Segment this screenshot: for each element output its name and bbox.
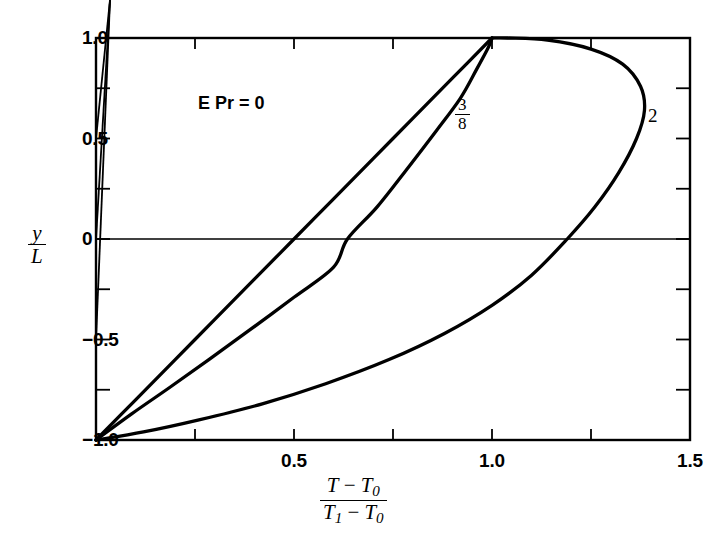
annotation-e-pr-zero: E Pr = 0 — [198, 93, 265, 114]
x-tick-label: 1.5 — [677, 450, 703, 472]
curve-label-three-eighths: 3 8 — [455, 96, 470, 133]
x-tick-label: 1.0 — [479, 450, 505, 472]
chart-canvas — [0, 0, 727, 534]
x-label-den-t0: T — [364, 500, 376, 524]
curve-label-38-numerator: 3 — [455, 96, 470, 114]
x-label-num-t0-sub: 0 — [372, 483, 380, 499]
y-axis-label-numerator: y — [28, 222, 46, 244]
x-label-num-t0: T — [361, 473, 373, 497]
y-axis-label-denominator: L — [28, 244, 46, 267]
x-label-num-t: T — [327, 473, 339, 497]
x-axis-label: T−T0 T1−T0 — [320, 474, 387, 526]
x-label-den-t0-sub: 0 — [376, 509, 384, 525]
x-axis-label-denominator: T1−T0 — [320, 500, 387, 527]
x-label-num-minus: − — [338, 473, 360, 497]
y-axis-ticks — [96, 0, 690, 390]
y-axis-label: y L — [28, 222, 46, 267]
x-tick-label: 0.5 — [281, 450, 307, 472]
figure-container: 0.51.01.5 1.00.50−0.5−1.0 E Pr = 0 3 8 2… — [0, 0, 727, 534]
x-axis-label-numerator: T−T0 — [320, 474, 387, 500]
x-label-den-t1: T — [323, 500, 335, 524]
curve-label-two: 2 — [648, 105, 658, 127]
curve-label-38-denominator: 8 — [455, 114, 470, 133]
x-label-den-minus: − — [342, 500, 364, 524]
